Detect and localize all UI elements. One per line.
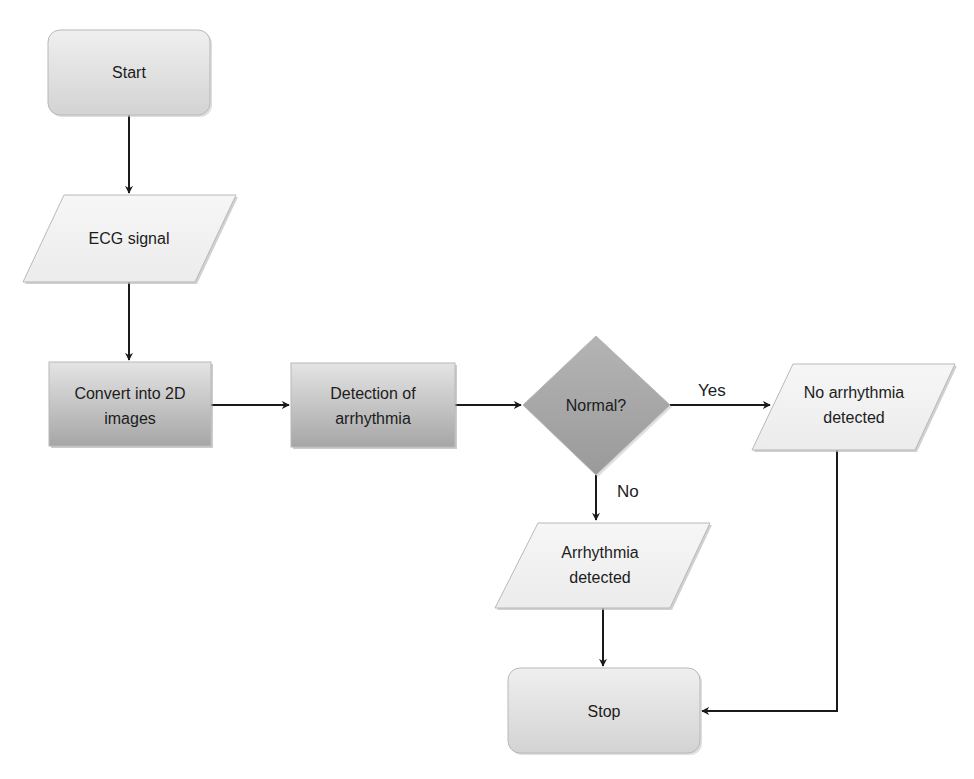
node-no-arrhythmia-label-line2: detected xyxy=(823,409,884,426)
edges xyxy=(129,115,837,711)
node-decision-normal-label: Normal? xyxy=(566,397,627,414)
node-no-arrhythmia: No arrhythmia detected xyxy=(752,364,957,452)
node-arrhythmia-detected-label-line1: Arrhythmia xyxy=(561,544,638,561)
node-convert-2d-label-line2: images xyxy=(104,410,156,427)
node-start-label: Start xyxy=(112,64,146,81)
edge-label-no: No xyxy=(617,482,639,501)
node-convert-2d-label-line1: Convert into 2D xyxy=(74,385,185,402)
node-detection-label-line1: Detection of xyxy=(330,385,416,402)
node-arrhythmia-detected: Arrhythmia detected xyxy=(495,523,712,610)
node-arrhythmia-detected-label-line2: detected xyxy=(569,569,630,586)
node-ecg-signal-label: ECG signal xyxy=(89,230,170,247)
node-detection: Detection of arrhythmia xyxy=(291,363,457,449)
node-convert-2d: Convert into 2D images xyxy=(49,362,213,448)
node-stop-label: Stop xyxy=(588,703,621,720)
node-stop: Stop xyxy=(508,668,702,755)
edge-noarr-to-stop xyxy=(702,450,837,711)
node-decision-normal: Normal? xyxy=(523,336,672,477)
node-detection-label-line2: arrhythmia xyxy=(335,410,411,427)
node-start: Start xyxy=(48,30,212,117)
node-ecg-signal: ECG signal xyxy=(23,195,238,284)
node-no-arrhythmia-label-line1: No arrhythmia xyxy=(804,384,905,401)
edge-label-yes: Yes xyxy=(698,381,726,400)
flowchart-canvas: Yes No Start ECG signal Convert into 2D … xyxy=(0,0,974,779)
